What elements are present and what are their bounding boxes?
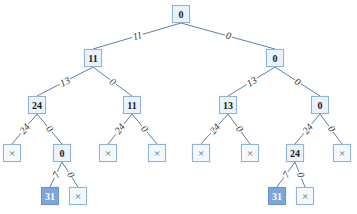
tree-node: 0 bbox=[266, 49, 284, 67]
null-node-x-icon: × bbox=[241, 144, 259, 162]
null-node-x-icon: × bbox=[333, 144, 351, 162]
tree-node: 24 bbox=[286, 144, 304, 162]
null-node-x-icon: × bbox=[192, 144, 210, 162]
null-node-x-icon: × bbox=[148, 144, 166, 162]
tree-diagram: 1101301302402402402407070 01102411130×0×… bbox=[0, 0, 357, 214]
tree-node: 0 bbox=[172, 5, 190, 23]
tree-node: 11 bbox=[123, 96, 141, 114]
null-node-x-icon: × bbox=[3, 144, 21, 162]
null-node-x-icon: × bbox=[69, 187, 87, 205]
null-node-x-icon: × bbox=[296, 187, 314, 205]
figure-caption bbox=[60, 205, 300, 214]
tree-node: 24 bbox=[28, 96, 46, 114]
tree-node: 0 bbox=[311, 96, 329, 114]
tree-edges bbox=[0, 0, 357, 214]
tree-node: 0 bbox=[53, 144, 71, 162]
tree-node: 11 bbox=[84, 49, 102, 67]
tree-node: 13 bbox=[219, 96, 237, 114]
highlighted-tree-node: 31 bbox=[268, 187, 286, 205]
null-node-x-icon: × bbox=[99, 144, 117, 162]
highlighted-tree-node: 31 bbox=[41, 187, 59, 205]
